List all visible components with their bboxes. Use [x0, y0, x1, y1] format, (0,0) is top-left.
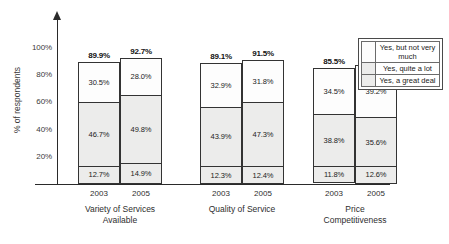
bar-total-label: 92.7%: [120, 47, 162, 56]
segment-value-label: 31.8%: [253, 77, 274, 86]
bar-segment: 12.3%: [200, 166, 242, 184]
bar-total-label: 85.5%: [313, 57, 355, 66]
segment-value-label: 12.6%: [366, 170, 387, 179]
bar-total-label: 91.5%: [242, 49, 284, 58]
legend-swatch-quite-a-lot: [362, 63, 376, 75]
segment-value-label: 30.5%: [89, 78, 110, 87]
segment-value-label: 11.8%: [324, 170, 344, 179]
x-tick-year-2003: 2003: [200, 189, 242, 198]
legend-item: Yes, a great deal: [362, 75, 440, 87]
bar-segment: 38.8%: [313, 114, 355, 168]
x-axis-group-label: Variety of ServicesAvailable: [57, 204, 183, 226]
segment-value-label: 34.5%: [324, 87, 345, 96]
segment-value-label: 35.6%: [366, 138, 387, 147]
segment-value-label: 47.3%: [253, 130, 274, 139]
bar-quality-of-service-2005: 31.8%47.3%12.4%: [242, 60, 284, 184]
bar-segment: 32.9%: [200, 63, 242, 108]
bar-segment: 47.3%: [242, 102, 284, 167]
x-axis-group-label-line2: Available: [103, 215, 137, 225]
segment-value-label: 12.4%: [253, 171, 274, 180]
bar-segment: 34.5%: [313, 68, 355, 115]
bar-total-label: 89.1%: [200, 52, 242, 61]
segment-value-label: 46.7%: [89, 130, 110, 139]
bar-segment: 11.8%: [313, 166, 355, 183]
plot-area: 30.5%46.7%12.7%89.9%200328.0%49.8%14.9%9…: [0, 0, 449, 244]
bar-variety-of-services-available-2003: 30.5%46.7%12.7%: [78, 62, 120, 184]
bar-segment: 12.7%: [78, 166, 120, 184]
bar-segment: 46.7%: [78, 102, 120, 167]
bar-segment: 14.9%: [120, 163, 162, 184]
x-tick-year-2005: 2005: [355, 189, 397, 198]
legend-item: Yes, but not very much: [362, 42, 440, 63]
x-axis-group-label: PriceCompetitiveness: [292, 204, 418, 226]
bar-variety-of-services-available-2005: 28.0%49.8%14.9%: [120, 58, 162, 184]
x-tick-year-2005: 2005: [120, 189, 162, 198]
segment-value-label: 14.9%: [131, 169, 152, 178]
legend-swatch-not-very-much: [362, 42, 376, 63]
stacked-bar-chart: % of respondents 20%40%60%80%100% 30.5%4…: [0, 0, 449, 244]
segment-value-label: 12.3%: [211, 171, 232, 180]
bar-segment: 43.9%: [200, 107, 242, 168]
legend-label-great-deal: Yes, a great deal: [376, 75, 440, 87]
x-tick-year-2003: 2003: [78, 189, 120, 198]
bar-segment: 31.8%: [242, 60, 284, 103]
segment-value-label: 38.8%: [324, 136, 345, 145]
x-axis-group-label: Quality of Service: [179, 204, 305, 215]
segment-value-label: 49.8%: [131, 125, 152, 134]
segment-value-label: 28.0%: [131, 72, 152, 81]
x-tick-year-2003: 2003: [313, 189, 355, 198]
legend-swatch-great-deal: [362, 75, 376, 87]
legend-label-not-very-much: Yes, but not very much: [376, 42, 440, 63]
legend: Yes, but not very much Yes, quite a lot …: [358, 38, 443, 90]
segment-value-label: 12.7%: [89, 170, 110, 179]
bar-segment: 12.4%: [242, 166, 284, 184]
bar-segment: 30.5%: [78, 62, 120, 103]
bar-total-label: 89.9%: [78, 51, 120, 60]
legend-item: Yes, quite a lot: [362, 63, 440, 75]
legend-label-quite-a-lot: Yes, quite a lot: [376, 63, 440, 75]
bar-segment: 35.6%: [355, 117, 397, 166]
x-tick-year-2005: 2005: [242, 189, 284, 198]
bar-segment: 12.6%: [355, 166, 397, 184]
x-axis-group-label-line2: Competitiveness: [324, 215, 387, 225]
bar-quality-of-service-2003: 32.9%43.9%12.3%: [200, 63, 242, 184]
bar-segment: 49.8%: [120, 95, 162, 164]
bar-price-competitiveness-2003: 34.5%38.8%11.8%: [313, 68, 355, 184]
bar-segment: 28.0%: [120, 58, 162, 96]
segment-value-label: 32.9%: [211, 81, 232, 90]
segment-value-label: 43.9%: [211, 132, 232, 141]
